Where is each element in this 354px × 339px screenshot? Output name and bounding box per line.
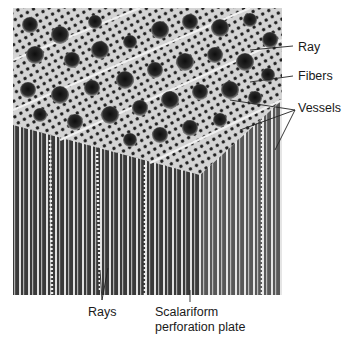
label-vessels: Vessels: [298, 101, 341, 115]
label-ray: Ray: [298, 40, 320, 54]
label-rays: Rays: [88, 305, 116, 319]
wood-micrograph-figure: Ray Fibers Vessels Rays Scalariform perf…: [0, 0, 354, 339]
label-scalariform: Scalariform: [155, 305, 218, 319]
label-perforation-plate: perforation plate: [155, 320, 245, 334]
label-fibers: Fibers: [298, 69, 333, 83]
